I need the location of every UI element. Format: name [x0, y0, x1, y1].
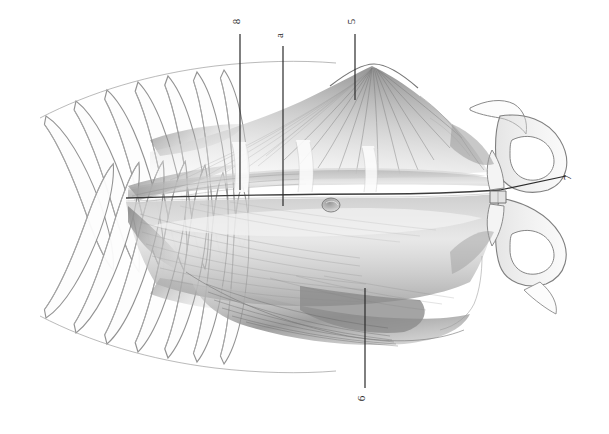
label-8: 8 [231, 19, 242, 25]
umbilicus [322, 198, 340, 212]
label-5: 5 [346, 19, 357, 25]
label-6: 6 [356, 396, 367, 402]
label-a: a [274, 33, 285, 38]
pubic-symphysis [490, 191, 506, 203]
anatomical-illustration [0, 0, 609, 434]
label-7: 7 [562, 175, 573, 181]
